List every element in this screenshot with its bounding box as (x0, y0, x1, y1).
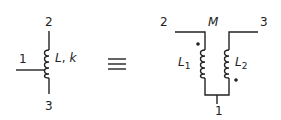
inductor-l1-coil-icon (201, 50, 206, 78)
terminal-3-label: 3 (45, 99, 53, 113)
tapped-inductor-equivalence-diagram: 2 1 3 L,k 2 M 3 L1 L2 (0, 0, 281, 120)
terminal-1-label-right: 1 (215, 104, 223, 118)
coupled-inductors: 2 M 3 L1 L2 1 (160, 15, 268, 118)
terminal-2-label-right: 2 (160, 15, 168, 29)
terminal-2-label: 2 (45, 15, 53, 29)
tapped-inductor: 2 1 3 L,k (16, 15, 78, 113)
terminal-1-label: 1 (19, 52, 27, 66)
equivalence-symbol (108, 59, 126, 69)
inductor-l2-label: L2 (235, 55, 247, 71)
terminal-3-label-right: 3 (260, 15, 268, 29)
inductor-l2-coil-icon (225, 50, 230, 78)
polarity-dot-l1-icon (196, 42, 200, 46)
mutual-inductance-label: M (208, 15, 219, 29)
l2-top-wire (229, 32, 258, 50)
inductor-l1-label: L1 (178, 55, 190, 71)
polarity-dot-l2-icon (234, 78, 238, 82)
inductor-coil-icon (45, 50, 50, 78)
l1-top-wire (175, 32, 205, 50)
inductance-label: L,k (55, 51, 78, 65)
bottom-join-wire (205, 78, 229, 95)
